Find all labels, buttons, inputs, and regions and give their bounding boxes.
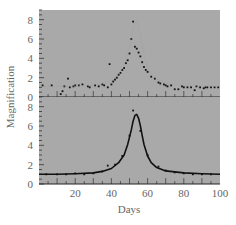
data-point — [210, 173, 212, 175]
data-point — [190, 86, 192, 88]
data-point — [205, 86, 207, 88]
x-tick-label: 100 — [212, 187, 229, 199]
data-point — [132, 21, 134, 23]
data-point — [187, 86, 189, 88]
data-point — [72, 85, 74, 87]
data-point — [139, 130, 141, 132]
y-tick-label: 4 — [28, 52, 34, 64]
data-point — [123, 67, 125, 69]
data-point — [158, 82, 160, 84]
data-point — [60, 93, 62, 95]
data-point — [98, 85, 100, 87]
data-point — [83, 173, 85, 175]
data-point — [62, 90, 64, 92]
data-point — [141, 61, 143, 63]
y-tick-label: 8 — [28, 14, 34, 26]
y-tick-label: 2 — [28, 159, 34, 171]
data-point — [107, 86, 109, 88]
data-point — [139, 56, 141, 58]
data-point — [201, 173, 203, 175]
data-point — [183, 172, 185, 174]
top-panel — [39, 10, 220, 97]
data-point — [181, 85, 183, 87]
data-point — [147, 154, 149, 156]
y-tick-label: 0 — [28, 178, 34, 190]
data-point — [129, 53, 131, 55]
data-point — [69, 86, 71, 88]
data-point — [192, 173, 194, 175]
data-point — [170, 85, 172, 87]
y-tick-label: 6 — [28, 120, 34, 132]
x-tick-label: 20 — [70, 187, 82, 199]
data-point — [158, 166, 160, 168]
data-point — [112, 81, 114, 83]
y-tick-label: 8 — [28, 101, 34, 113]
data-point — [116, 77, 118, 79]
data-point — [174, 172, 176, 174]
x-axis-title: Days — [118, 203, 141, 215]
y-axis-title: Magnification — [4, 65, 16, 128]
data-point — [92, 172, 94, 174]
y-tick-label: 2 — [28, 72, 34, 84]
data-point — [51, 85, 53, 87]
bottom-panel — [39, 97, 220, 184]
x-axis-tick-labels: 20406080100 — [70, 187, 229, 199]
data-point — [107, 165, 109, 167]
data-point — [65, 173, 67, 175]
data-point — [183, 86, 185, 88]
data-point — [214, 86, 216, 88]
data-point — [177, 88, 179, 90]
data-point — [150, 76, 152, 78]
y-tick-label: 4 — [28, 139, 34, 151]
data-point — [127, 59, 129, 61]
microlensing-chart: 0246802468 20406080100 Magnification Day… — [0, 0, 236, 225]
data-point — [167, 85, 169, 87]
data-point — [109, 63, 111, 65]
data-point — [203, 87, 205, 89]
data-point — [67, 78, 69, 80]
y-axis-tick-labels: 0246802468 — [28, 14, 34, 190]
data-point — [114, 79, 116, 81]
data-point — [82, 84, 84, 86]
data-point — [132, 110, 134, 112]
data-point — [194, 89, 196, 91]
data-point — [165, 170, 167, 172]
data-point — [138, 52, 140, 54]
data-point — [129, 135, 131, 137]
data-point — [114, 164, 116, 166]
data-point — [147, 71, 149, 73]
data-point — [199, 86, 201, 88]
data-point — [111, 84, 113, 86]
x-tick-label: 60 — [142, 187, 154, 199]
data-point — [121, 155, 123, 157]
data-point — [103, 85, 105, 87]
data-point — [45, 173, 47, 175]
data-point — [101, 171, 103, 173]
data-point — [42, 85, 44, 87]
data-point — [163, 84, 165, 86]
x-tick-label: 40 — [106, 187, 118, 199]
data-point — [210, 86, 212, 88]
data-point — [174, 88, 176, 90]
y-tick-label: 6 — [28, 33, 34, 45]
data-point — [74, 172, 76, 174]
data-point — [134, 46, 136, 48]
data-point — [56, 173, 58, 175]
x-tick-label: 80 — [178, 187, 190, 199]
data-point — [89, 86, 91, 88]
data-point — [87, 85, 89, 87]
data-point — [159, 83, 161, 85]
data-point — [206, 86, 208, 88]
data-point — [101, 84, 103, 86]
data-point — [145, 69, 147, 71]
plot-area — [39, 97, 220, 184]
data-point — [165, 85, 167, 87]
data-point — [143, 66, 145, 68]
data-point — [136, 48, 138, 50]
